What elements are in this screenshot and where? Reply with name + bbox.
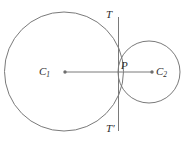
label-c2-subscript: 2 xyxy=(163,70,167,79)
label-tangent-point-p: P xyxy=(121,60,128,71)
label-tangent-top-t: T xyxy=(106,9,112,20)
label-center-c1: C1 xyxy=(39,66,50,79)
prime-mark: ′ xyxy=(112,122,114,134)
geometry-figure: C1 C2 P T T′ xyxy=(0,0,191,147)
center-dot-c1 xyxy=(63,70,66,73)
label-center-c2: C2 xyxy=(156,66,167,79)
label-c1-subscript: 1 xyxy=(46,70,50,79)
center-dot-c2 xyxy=(150,70,153,73)
label-tangent-bottom-t-prime: T′ xyxy=(106,123,115,134)
